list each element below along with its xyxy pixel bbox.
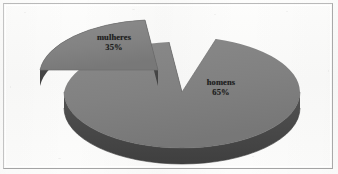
slice-label-mulheres-name: mulheres xyxy=(84,33,144,42)
slice-label-homens-name: homens xyxy=(191,78,251,87)
chart-plot-area: mulheres 35% homens 65% xyxy=(6,6,332,168)
pie-chart-screenshot: mulheres 35% homens 65% xyxy=(0,0,338,174)
pie-chart-graphic xyxy=(6,6,332,168)
slice-label-homens-percent: 65% xyxy=(191,88,251,97)
slice-label-mulheres-percent: 35% xyxy=(84,43,144,52)
slice-label-mulheres: mulheres 35% xyxy=(84,33,144,52)
slice-label-homens: homens 65% xyxy=(191,78,251,97)
